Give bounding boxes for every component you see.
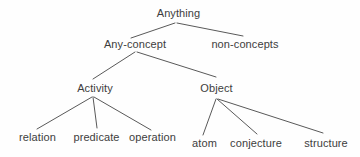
node-relation: relation (19, 132, 56, 143)
edge-object-atom (203, 99, 216, 135)
node-structure: structure (304, 138, 348, 149)
node-object: Object (200, 83, 232, 94)
edge-object-conjecture (217, 99, 257, 134)
edge-activity-operation (94, 97, 151, 130)
node-predicate: predicate (73, 132, 119, 143)
edge-any-concept-object (137, 52, 216, 77)
node-anything: Anything (157, 8, 201, 19)
node-activity: Activity (77, 83, 113, 94)
edge-activity-relation (37, 97, 92, 129)
edge-anything-any-concept (131, 23, 175, 38)
tree-diagram: Anything Any-concept non-concepts Activi… (0, 0, 360, 157)
edge-object-structure (218, 99, 323, 133)
edge-anything-non-concepts (177, 23, 243, 36)
node-any-concept: Any-concept (104, 39, 166, 50)
node-atom: atom (192, 138, 217, 149)
node-non-concepts: non-concepts (211, 39, 278, 50)
edge-activity-predicate (93, 97, 97, 128)
node-conjecture: conjecture (230, 138, 282, 149)
edge-any-concept-activity (93, 52, 135, 79)
node-operation: operation (129, 132, 176, 143)
